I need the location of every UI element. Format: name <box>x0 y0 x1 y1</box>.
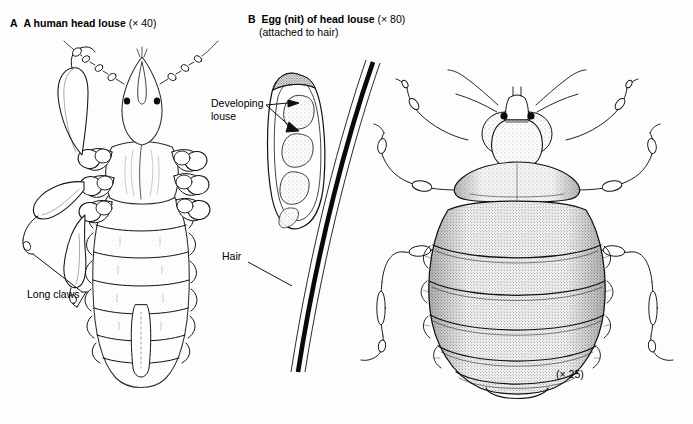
egg-capsule <box>268 73 325 229</box>
caption-panel-b: B Egg (nit) of head louse (× 80) (attach… <box>248 13 405 39</box>
louse-thorax <box>106 142 179 204</box>
caption-panel-a: A A human head louse (× 40) <box>10 17 156 30</box>
bedbug-eye-right <box>527 112 534 119</box>
caption-panel-b-magnification: (× 80) <box>378 13 406 25</box>
louse-legs-right <box>172 149 211 221</box>
label-developing-louse-line1: Developing <box>211 97 264 110</box>
label-developing-louse-line2: louse <box>211 110 264 123</box>
label-magnification-bedbug: (× 25) <box>556 368 584 381</box>
louse-eye-left <box>124 97 130 104</box>
louse-eye-right <box>154 97 160 104</box>
label-developing-louse: Developing louse <box>211 97 264 122</box>
bedbug-eye-left <box>500 112 507 119</box>
caption-panel-b-letter: B <box>248 13 256 25</box>
caption-panel-b-title: Egg (nit) of head louse <box>261 13 374 25</box>
caption-panel-a-magnification: (× 40) <box>129 17 157 29</box>
caption-panel-a-letter: A <box>10 17 18 29</box>
figure-illustration <box>0 0 693 424</box>
caption-panel-a-title: A human head louse <box>23 17 125 29</box>
label-long-claws: Long claws <box>27 288 80 301</box>
label-hair: Hair <box>222 250 241 263</box>
caption-panel-b-subtitle: (attached to hair) <box>248 26 405 39</box>
